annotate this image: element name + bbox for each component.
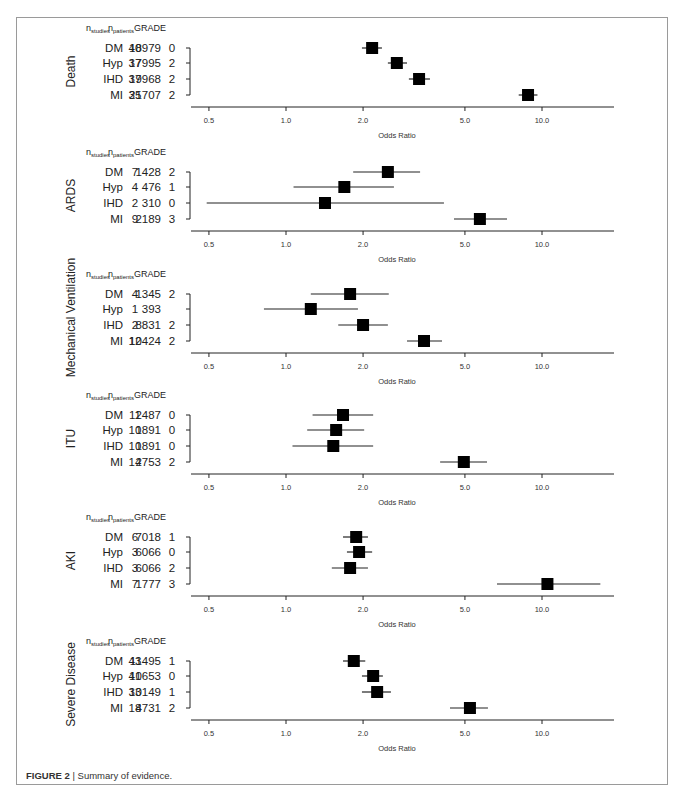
- row-label: Hyp: [103, 670, 123, 682]
- row-grade: 0: [169, 424, 175, 436]
- x-tick-label: 2.0: [358, 729, 368, 738]
- row-n-patients: 1428: [135, 166, 161, 178]
- row-n-patients: 2189: [135, 213, 161, 225]
- point-estimate-marker: [338, 181, 350, 193]
- row-grade: 1: [169, 531, 175, 543]
- x-tick-label: 1.0: [281, 116, 291, 125]
- row-grade: 2: [169, 73, 175, 85]
- x-axis-label: Odds Ratio: [378, 255, 416, 264]
- row-n-patients: 6066: [135, 562, 161, 574]
- row-n-patients: 2487: [135, 409, 161, 421]
- x-tick-label: 5.0: [460, 240, 470, 249]
- row-label: IHD: [103, 319, 123, 331]
- row-label: MI: [110, 702, 123, 714]
- caption-separator: |: [70, 770, 78, 781]
- point-estimate-marker: [337, 409, 349, 421]
- point-estimate-marker: [353, 546, 365, 558]
- caption-text: Summary of evidence.: [78, 770, 173, 781]
- x-tick-label: 1.0: [281, 483, 291, 492]
- row-n-patients: 17995: [129, 57, 161, 69]
- x-tick-label: 5.0: [460, 116, 470, 125]
- header-n-studies: nstudies: [86, 636, 110, 647]
- row-n-patients: 1891: [135, 424, 161, 436]
- header-n-patients: npatientsGRADE: [108, 390, 166, 401]
- row-label: MI: [110, 213, 123, 225]
- point-estimate-marker: [458, 456, 470, 468]
- point-estimate-marker: [413, 73, 425, 85]
- row-n-patients: 310: [142, 197, 161, 209]
- panel-severe-disease-title: Severe Disease: [64, 642, 78, 727]
- point-estimate-marker: [305, 303, 317, 315]
- x-tick-label: 10.0: [535, 240, 550, 249]
- forest-plot-figure: DeathnstudiesnpatientsGRADEDM40189790Hyp…: [0, 0, 684, 807]
- row-grade: 3: [169, 213, 175, 225]
- caption-figure-label: FIGURE 2: [26, 770, 70, 781]
- row-label: MI: [110, 578, 123, 590]
- x-tick-label: 10.0: [535, 116, 550, 125]
- x-axis-label: Odds Ratio: [378, 744, 416, 753]
- figure-caption: FIGURE 2 | Summary of evidence.: [26, 770, 172, 781]
- header-n-studies: nstudies: [86, 23, 110, 34]
- row-label: DM: [105, 42, 123, 54]
- row-label: MI: [110, 89, 123, 101]
- row-label: MI: [110, 335, 123, 347]
- row-grade: 1: [169, 655, 175, 667]
- row-grade: 3: [169, 578, 175, 590]
- row-n-patients: 18979: [129, 42, 161, 54]
- row-label: DM: [105, 288, 123, 300]
- x-tick-label: 1.0: [281, 362, 291, 371]
- row-grade: 2: [169, 702, 175, 714]
- row-label: Hyp: [103, 303, 123, 315]
- row-label: DM: [105, 166, 123, 178]
- point-estimate-marker: [319, 197, 331, 209]
- point-estimate-marker: [366, 42, 378, 54]
- point-estimate-marker: [348, 655, 360, 667]
- point-estimate-marker: [522, 89, 534, 101]
- row-n-patients: 10653: [129, 670, 161, 682]
- row-grade: 2: [169, 456, 175, 468]
- row-grade: 0: [169, 42, 175, 54]
- x-tick-label: 0.5: [204, 483, 214, 492]
- x-axis-label: Odds Ratio: [378, 620, 416, 629]
- x-tick-label: 2.0: [358, 605, 368, 614]
- x-tick-label: 0.5: [204, 605, 214, 614]
- row-label: IHD: [103, 73, 123, 85]
- point-estimate-marker: [344, 288, 356, 300]
- point-estimate-marker: [371, 686, 383, 698]
- panel-ards-title: ARDS: [64, 179, 78, 212]
- row-n-patients: 10424: [129, 335, 162, 347]
- header-n-patients: npatientsGRADE: [108, 269, 166, 280]
- row-grade: 2: [169, 166, 175, 178]
- point-estimate-marker: [391, 57, 403, 69]
- row-grade: 2: [169, 319, 175, 331]
- row-n-patients: 19968: [129, 73, 161, 85]
- x-tick-label: 0.5: [204, 729, 214, 738]
- row-grade: 2: [169, 335, 175, 347]
- row-n-patients: 10149: [129, 686, 161, 698]
- x-tick-label: 5.0: [460, 729, 470, 738]
- row-n-patients: 1777: [135, 578, 161, 590]
- row-grade: 0: [169, 440, 175, 452]
- x-tick-label: 5.0: [460, 362, 470, 371]
- x-tick-label: 5.0: [460, 483, 470, 492]
- row-grade: 0: [169, 670, 175, 682]
- row-n-patients: 6066: [135, 546, 161, 558]
- row-n-patients: 476: [142, 181, 161, 193]
- header-n-patients: npatientsGRADE: [108, 23, 166, 34]
- row-n-patients: 7018: [135, 531, 161, 543]
- x-tick-label: 5.0: [460, 605, 470, 614]
- row-label: Hyp: [103, 57, 123, 69]
- header-n-studies: nstudies: [86, 512, 110, 523]
- row-grade: 2: [169, 562, 175, 574]
- row-label: DM: [105, 409, 123, 421]
- row-grade: 2: [169, 57, 175, 69]
- row-label: Hyp: [103, 181, 123, 193]
- x-tick-label: 2.0: [358, 240, 368, 249]
- header-n-studies: nstudies: [86, 147, 110, 158]
- row-n-patients: 11495: [130, 655, 161, 667]
- header-n-patients: npatientsGRADE: [108, 147, 166, 158]
- row-n-patients: 8831: [135, 319, 161, 331]
- x-tick-label: 10.0: [535, 483, 550, 492]
- x-tick-label: 1.0: [281, 240, 291, 249]
- row-label: Hyp: [103, 546, 123, 558]
